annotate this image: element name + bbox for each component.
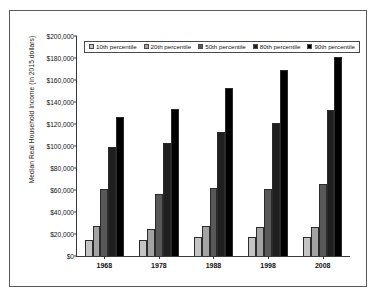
legend-label: 90th percentile — [314, 44, 355, 50]
bar[interactable] — [163, 143, 171, 256]
bar[interactable] — [171, 109, 179, 256]
bar[interactable] — [272, 123, 280, 256]
y-axis-tick-label: $40,000 — [50, 209, 74, 216]
y-axis-tick-mark — [74, 168, 77, 169]
y-axis-tick-mark — [74, 212, 77, 213]
bar-groups: 19681978198819982008 — [77, 36, 350, 256]
y-axis-tick-label: $0 — [67, 253, 74, 260]
legend-item-50th-percentile[interactable]: 50th percentile — [198, 44, 246, 50]
legend-item-20th-percentile[interactable]: 20th percentile — [144, 44, 192, 50]
bar[interactable] — [217, 132, 225, 256]
bar-group-1988: 1988 — [186, 36, 241, 256]
y-axis-tick-mark — [74, 102, 77, 103]
x-axis-tick-label: 2008 — [315, 262, 331, 269]
y-axis-tick-mark — [74, 256, 77, 257]
x-axis-tick-mark — [159, 256, 160, 259]
bar[interactable] — [108, 147, 116, 256]
bar-set — [303, 36, 342, 256]
legend-swatch-icon — [307, 44, 312, 49]
x-axis-tick-mark — [323, 256, 324, 259]
bar[interactable] — [194, 237, 202, 256]
bar-group-2008: 2008 — [295, 36, 350, 256]
y-axis-tick-mark — [74, 80, 77, 81]
bar-group-1998: 1998 — [241, 36, 296, 256]
y-axis-tick-label: $180,000 — [46, 55, 74, 62]
bar[interactable] — [327, 110, 335, 256]
bar[interactable] — [334, 57, 342, 256]
y-axis-tick-mark — [74, 146, 77, 147]
legend-swatch-icon — [253, 44, 258, 49]
legend-item-80th-percentile[interactable]: 80th percentile — [253, 44, 301, 50]
bar[interactable] — [100, 189, 108, 256]
y-axis-tick-mark — [74, 124, 77, 125]
bar-set — [139, 36, 178, 256]
bar-group-1968: 1968 — [77, 36, 132, 256]
y-axis-tick-label: $160,000 — [46, 77, 74, 84]
bar[interactable] — [256, 227, 264, 256]
bar[interactable] — [303, 237, 311, 256]
x-axis-tick-label: 1968 — [97, 262, 113, 269]
legend-swatch-icon — [198, 44, 203, 49]
bar-set — [194, 36, 233, 256]
bar[interactable] — [248, 237, 256, 256]
bar[interactable] — [85, 240, 93, 257]
bar-set — [248, 36, 287, 256]
bar[interactable] — [311, 227, 319, 256]
y-axis-tick-mark — [74, 58, 77, 59]
x-axis-tick-mark — [104, 256, 105, 259]
legend-item-10th-percentile[interactable]: 10th percentile — [89, 44, 137, 50]
chart-legend: 10th percentile20th percentile50th perce… — [84, 41, 360, 53]
legend-item-90th-percentile[interactable]: 90th percentile — [307, 44, 355, 50]
x-axis-tick-label: 1998 — [260, 262, 276, 269]
y-axis-tick-label: $60,000 — [50, 187, 74, 194]
legend-swatch-icon — [89, 44, 94, 49]
y-axis-tick-label: $100,000 — [46, 143, 74, 150]
y-axis-title: Median Real Household Income (in 2015 do… — [28, 15, 35, 205]
bar[interactable] — [93, 226, 101, 256]
bar[interactable] — [147, 229, 155, 257]
bar-group-1978: 1978 — [132, 36, 187, 256]
y-axis-tick-label: $120,000 — [46, 121, 74, 128]
bar[interactable] — [264, 189, 272, 256]
bar[interactable] — [202, 226, 210, 256]
bar[interactable] — [210, 188, 218, 256]
y-axis-tick-mark — [74, 190, 77, 191]
bar[interactable] — [116, 117, 124, 256]
bar-set — [85, 36, 124, 256]
legend-swatch-icon — [144, 44, 149, 49]
y-axis-tick-mark — [74, 36, 77, 37]
plot-area: 10th percentile20th percentile50th perce… — [76, 36, 350, 257]
y-axis-tick-mark — [74, 234, 77, 235]
legend-label: 10th percentile — [96, 44, 137, 50]
y-axis-tick-label: $20,000 — [50, 231, 74, 238]
legend-label: 80th percentile — [260, 44, 301, 50]
bar[interactable] — [225, 88, 233, 256]
bar[interactable] — [155, 194, 163, 256]
x-axis-tick-label: 1978 — [151, 262, 167, 269]
y-axis-tick-label: $80,000 — [50, 165, 74, 172]
y-axis-tick-label: $140,000 — [46, 99, 74, 106]
bar[interactable] — [139, 240, 147, 257]
y-axis-tick-label: $200,000 — [46, 33, 74, 40]
chart-frame: Median Real Household Income (in 2015 do… — [9, 10, 367, 287]
legend-label: 20th percentile — [151, 44, 192, 50]
x-axis-tick-mark — [268, 256, 269, 259]
x-axis-tick-mark — [213, 256, 214, 259]
legend-label: 50th percentile — [205, 44, 246, 50]
x-axis-tick-label: 1988 — [206, 262, 222, 269]
bar[interactable] — [319, 184, 327, 256]
bar[interactable] — [280, 70, 288, 256]
